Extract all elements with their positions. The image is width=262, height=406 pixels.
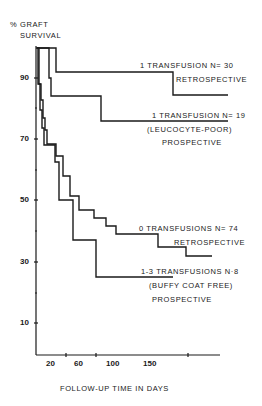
series-4-label-line2: (BUFFY COAT FREE) (149, 281, 233, 290)
y-tick-90: 90 (20, 73, 29, 82)
y-tick-10: 10 (20, 318, 29, 327)
series-1-label-line1: 1 TRANSFUSION N= 30 (140, 61, 234, 70)
curve-1-3-transfusions-n8 (37, 48, 173, 277)
series-2-label-line1: 1 TRANSFUSION N= 19 (152, 111, 246, 120)
series-3-label-line1: 0 TRANSFUSIONS N= 74 (139, 224, 238, 233)
x-axis-label: FOLLOW-UP TIME IN DAYS (60, 384, 169, 393)
y-tick-70: 70 (20, 134, 29, 143)
curve-1-transfusion-n30 (37, 48, 228, 95)
series-3-label-line2: RETROSPECTIVE (174, 238, 245, 247)
series-2-label-line3: PROSPECTIVE (162, 138, 222, 147)
series-4-label-line3: PROSPECTIVE (152, 295, 212, 304)
series-1-label-line2: RETROSPECTIVE (176, 75, 247, 84)
x-tick-150: 150 (143, 359, 156, 368)
series-4-label-line1: 1-3 TRANSFUSIONS N·8 (141, 267, 239, 276)
y-tick-30: 30 (20, 257, 29, 266)
series-2-label-line2: (LEUCOCYTE-POOR) (147, 125, 232, 134)
x-tick-20: 20 (46, 359, 55, 368)
y-tick-50: 50 (20, 195, 29, 204)
x-tick-60: 60 (74, 359, 83, 368)
x-tick-100: 100 (106, 359, 119, 368)
